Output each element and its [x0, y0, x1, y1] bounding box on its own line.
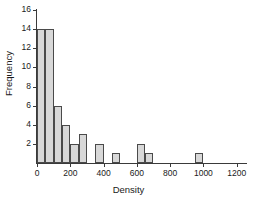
y-tick-mark [33, 87, 37, 88]
x-tick-mark [237, 163, 238, 167]
histogram-bar [195, 153, 203, 163]
x-tick-label: 1200 [227, 168, 246, 179]
histogram-bar [54, 106, 62, 163]
plot-area [37, 10, 245, 163]
histogram-bar [37, 29, 45, 163]
y-tick-label: 16 [22, 4, 31, 15]
x-tick-mark [137, 163, 138, 167]
y-tick-label: 10 [22, 61, 31, 72]
histogram-bar [62, 125, 70, 163]
y-tick-mark [33, 144, 37, 145]
y-tick-label: 14 [22, 23, 31, 34]
x-tick-label: 200 [63, 168, 77, 179]
x-tick-label: 0 [35, 168, 40, 179]
y-tick-mark [33, 29, 37, 30]
y-tick-mark [33, 67, 37, 68]
y-tick-mark [33, 106, 37, 107]
x-axis-title: Density [0, 184, 257, 195]
y-tick-label: 12 [22, 42, 31, 53]
histogram-bar [95, 144, 103, 163]
y-tick-mark [33, 10, 37, 11]
histogram-chart: 246810121416 020040060080010001200 Densi… [0, 0, 257, 207]
histogram-bar [137, 144, 145, 163]
x-tick-label: 600 [130, 168, 144, 179]
x-tick-label: 800 [163, 168, 177, 179]
histogram-bar [70, 144, 78, 163]
y-tick-mark [33, 125, 37, 126]
y-axis-title: Frequency [3, 27, 14, 121]
histogram-bar [79, 134, 87, 163]
histogram-bar [145, 153, 153, 163]
y-tick: 2 [0, 144, 37, 145]
y-tick-label: 4 [26, 119, 31, 130]
y-tick-mark [33, 48, 37, 49]
x-tick-mark [37, 163, 38, 167]
y-tick-label: 2 [26, 138, 31, 149]
y-tick: 4 [0, 125, 37, 126]
y-tick-label: 8 [26, 81, 31, 92]
x-axis-line [36, 163, 247, 164]
bar-series [37, 10, 245, 163]
x-tick-mark [70, 163, 71, 167]
x-tick-label: 1000 [194, 168, 213, 179]
x-tick-mark [203, 163, 204, 167]
x-tick-label: 400 [96, 168, 110, 179]
x-tick-mark [170, 163, 171, 167]
y-tick: 16 [0, 10, 37, 11]
y-tick-label: 6 [26, 100, 31, 111]
histogram-bar [45, 29, 53, 163]
histogram-bar [112, 153, 120, 163]
x-tick-mark [104, 163, 105, 167]
